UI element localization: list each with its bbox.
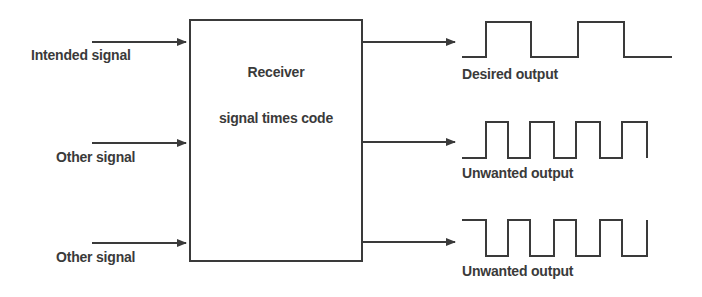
- waveform-unwanted-2: [462, 220, 647, 256]
- receiver-box: [190, 20, 362, 261]
- waveform-unwanted-1: [462, 122, 647, 158]
- input-label-intended: Intended signal: [31, 47, 131, 63]
- receiver-title: Receiver: [190, 64, 362, 80]
- receiver-subtitle: signal times code: [190, 110, 362, 126]
- output-label-unwanted-1: Unwanted output: [462, 165, 573, 181]
- input-label-other-2: Other signal: [56, 249, 135, 265]
- input-label-other-1: Other signal: [56, 149, 135, 165]
- waveform-desired: [462, 22, 672, 57]
- output-label-unwanted-2: Unwanted output: [462, 263, 573, 279]
- output-label-desired: Desired output: [462, 66, 558, 82]
